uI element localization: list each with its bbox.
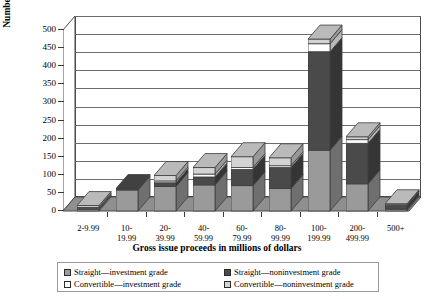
- chart-figure: Number of issues 05010015020025030035040…: [0, 0, 434, 299]
- legend-item: Convertible—noninvestment grade: [224, 279, 354, 289]
- legend-label: Straight—noninvestment grade: [234, 267, 340, 277]
- y-tick-label: 150: [26, 152, 56, 161]
- x-tick-label: 500+: [368, 223, 424, 233]
- bar-segment-front: [193, 185, 215, 211]
- y-tick-mark: [58, 174, 64, 175]
- y-tick-label: 450: [26, 43, 56, 52]
- bar-segment-front: [193, 168, 215, 175]
- legend-item: Straight—noninvestment grade: [224, 267, 340, 277]
- legend-item: Convertible—investment grade: [64, 279, 181, 289]
- bar-segment-front: [346, 143, 368, 184]
- legend-label: Convertible—noninvestment grade: [234, 279, 354, 289]
- bar-3d-shape: [231, 16, 267, 215]
- bar-segment-front: [308, 52, 330, 150]
- bar-3d-shape: [193, 16, 229, 215]
- plot-area: [63, 16, 421, 210]
- y-tick-label: 300: [26, 97, 56, 106]
- bar-3d-shape: [116, 16, 152, 215]
- bar-segment-front: [269, 168, 291, 189]
- legend-swatch-icon: [64, 269, 71, 276]
- y-tick-mark: [58, 120, 64, 121]
- x-tick-mark: [223, 212, 224, 217]
- chart-legend: Straight—investment gradeStraight—noninv…: [57, 262, 379, 292]
- x-tick-mark: [107, 212, 108, 217]
- legend-swatch-icon: [224, 269, 231, 276]
- bar-segment-front: [154, 176, 176, 181]
- y-tick-mark: [58, 210, 64, 211]
- y-tick-mark: [58, 65, 64, 66]
- bar-segment-front: [385, 206, 407, 210]
- y-tick-label: 200: [26, 134, 56, 143]
- bar-segment-front: [308, 44, 330, 52]
- y-tick-mark: [58, 83, 64, 84]
- y-tick-label: 350: [26, 79, 56, 88]
- bar-3d-shape: [385, 16, 421, 215]
- y-tick-label: 100: [26, 170, 56, 179]
- legend-label: Convertible—investment grade: [74, 279, 181, 289]
- bar-segment-front: [193, 177, 215, 185]
- y-tick-label: 400: [26, 61, 56, 70]
- y-tick-label: 0: [26, 206, 56, 215]
- y-axis-title: Number of issues: [2, 0, 12, 58]
- y-tick-mark: [58, 101, 64, 102]
- y-tick-mark: [58, 47, 64, 48]
- y-tick-mark: [58, 192, 64, 193]
- bar-segment-front: [231, 169, 253, 185]
- legend-label: Straight—investment grade: [74, 267, 168, 277]
- x-tick-mark: [377, 212, 378, 217]
- bar-3d-shape: [346, 16, 382, 215]
- bar-segment-front: [193, 174, 215, 177]
- bar-segment-front: [346, 184, 368, 211]
- legend-swatch-icon: [224, 281, 231, 288]
- bar-segment-front: [308, 39, 330, 44]
- bar-segment-front: [154, 183, 176, 187]
- bar-3d-shape: [154, 16, 190, 215]
- bar-3d-shape: [77, 16, 113, 215]
- y-tick-label: 500: [26, 25, 56, 34]
- bar-segment-front: [308, 150, 330, 211]
- bar-segment-front: [269, 158, 291, 166]
- y-tick-mark: [58, 156, 64, 157]
- y-tick-label: 50: [26, 188, 56, 197]
- bar-segment-front: [154, 186, 176, 211]
- bar-3d-shape: [269, 16, 305, 215]
- y-tick-mark: [58, 138, 64, 139]
- x-tick-mark: [338, 212, 339, 217]
- bar-segment-front: [269, 189, 291, 211]
- legend-swatch-icon: [64, 281, 71, 288]
- x-tick-mark: [146, 212, 147, 217]
- bar-segment-front: [346, 140, 368, 144]
- bar-segment-front: [116, 190, 138, 211]
- y-tick-mark: [58, 29, 64, 30]
- x-tick-mark: [184, 212, 185, 217]
- legend-item: Straight—investment grade: [64, 267, 168, 277]
- bar-segment-front: [231, 157, 253, 168]
- bar-3d-shape: [308, 16, 344, 215]
- y-tick-label: 250: [26, 116, 56, 125]
- x-tick-mark: [261, 212, 262, 217]
- x-axis-title: Gross issue proceeds in millions of doll…: [0, 243, 434, 253]
- bar-segment-front: [231, 186, 253, 211]
- x-tick-mark: [300, 212, 301, 217]
- bar-segment-front: [346, 137, 368, 140]
- bar-segment-side: [330, 38, 342, 150]
